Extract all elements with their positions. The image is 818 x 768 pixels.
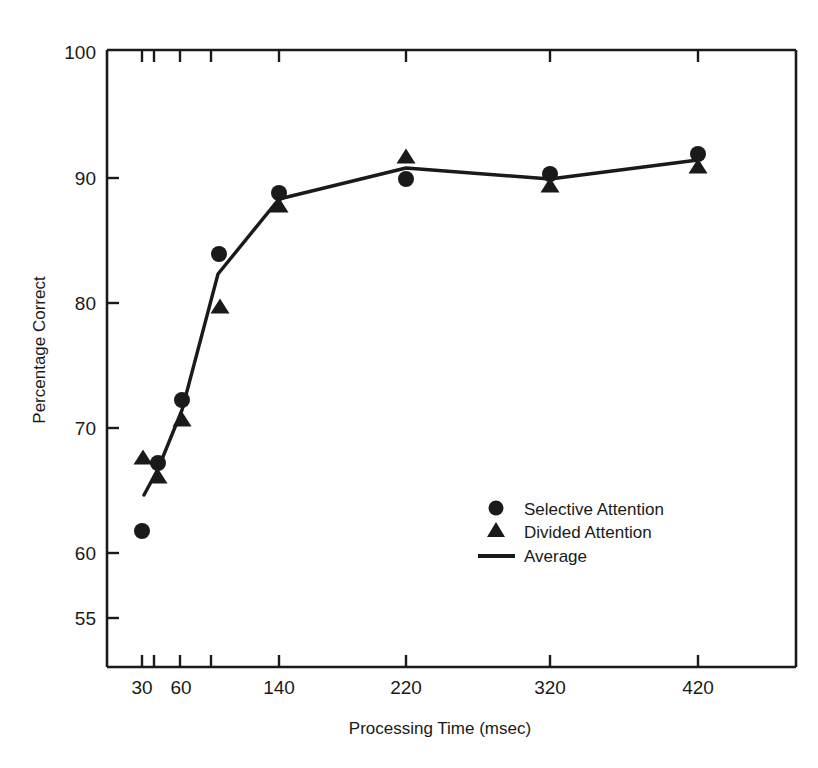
point-marker-triangle <box>173 412 192 427</box>
legend-triangle-icon <box>487 522 505 537</box>
point-marker-triangle <box>149 469 168 484</box>
y-tick-label-55: 55 <box>75 608 96 629</box>
y-tick-label-70: 70 <box>75 418 96 439</box>
legend-label-average: Average <box>524 547 587 566</box>
x-tick-label-60: 60 <box>170 677 191 698</box>
x-tick-label-30: 30 <box>131 677 152 698</box>
average-line <box>144 160 698 495</box>
legend-label-divided: Divided Attention <box>524 523 652 542</box>
point-marker-circle <box>174 392 190 408</box>
legend-label-selective: Selective Attention <box>524 500 664 519</box>
x-tick-label-220: 220 <box>390 677 422 698</box>
x-axis-ticks-top <box>142 50 698 62</box>
point-marker-circle <box>134 523 150 539</box>
point-marker-circle <box>211 246 227 262</box>
legend: Selective Attention Divided Attention Av… <box>478 500 664 566</box>
x-axis-ticks-bottom <box>142 655 698 667</box>
y-tick-label-80: 80 <box>75 293 96 314</box>
point-marker-circle <box>398 171 414 187</box>
chart-figure: 100 90 80 70 60 55 30 <box>0 0 818 768</box>
x-tick-label-320: 320 <box>534 677 566 698</box>
chart-canvas: 100 90 80 70 60 55 30 <box>0 0 818 768</box>
y-axis-title: Percentage Correct <box>30 276 49 424</box>
x-tick-label-140: 140 <box>263 677 295 698</box>
point-marker-triangle <box>211 299 230 314</box>
y-tick-label-90: 90 <box>75 168 96 189</box>
y-tick-label-60: 60 <box>75 543 96 564</box>
legend-circle-icon <box>489 501 504 516</box>
data-series-layer <box>134 146 708 539</box>
point-marker-triangle <box>134 450 153 465</box>
x-axis-title: Processing Time (msec) <box>349 719 531 738</box>
x-tick-label-420: 420 <box>682 677 714 698</box>
point-marker-triangle <box>397 149 416 164</box>
y-axis-ticks <box>107 178 119 618</box>
axis-frame <box>107 50 796 667</box>
y-tick-label-100: 100 <box>64 42 96 63</box>
